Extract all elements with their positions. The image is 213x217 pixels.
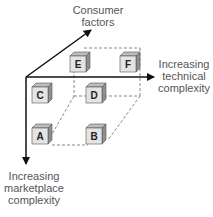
cube-f: F xyxy=(120,52,140,72)
cube-b: B xyxy=(86,124,106,144)
cube-label-b: B xyxy=(90,131,97,142)
cube-label-a: A xyxy=(36,131,43,142)
consumer-label-line2: factors xyxy=(81,16,115,28)
cube-diagram: E F C D A B Consumer factors Inc xyxy=(0,0,213,217)
cube-label-c: C xyxy=(36,90,43,101)
technical-complexity-label: Increasing technical complexity xyxy=(158,58,210,94)
cube-e: E xyxy=(70,52,90,72)
cube-d: D xyxy=(86,83,106,103)
marketplace-label-line1: Increasing xyxy=(9,170,60,182)
marketplace-label-line2: marketplace xyxy=(4,182,64,194)
technical-label-line2: technical xyxy=(162,70,205,82)
consumer-label-line1: Consumer xyxy=(73,4,124,16)
cube-label-d: D xyxy=(90,90,97,101)
consumer-factors-label: Consumer factors xyxy=(73,4,124,28)
marketplace-label-line3: complexity xyxy=(8,194,60,206)
marketplace-complexity-label: Increasing marketplace complexity xyxy=(4,170,64,206)
cube-c: C xyxy=(32,83,52,103)
cube-label-f: F xyxy=(125,59,131,70)
cube-label-e: E xyxy=(75,59,82,70)
cube-a: A xyxy=(32,124,52,144)
technical-label-line1: Increasing xyxy=(159,58,210,70)
technical-label-line3: complexity xyxy=(158,82,210,94)
